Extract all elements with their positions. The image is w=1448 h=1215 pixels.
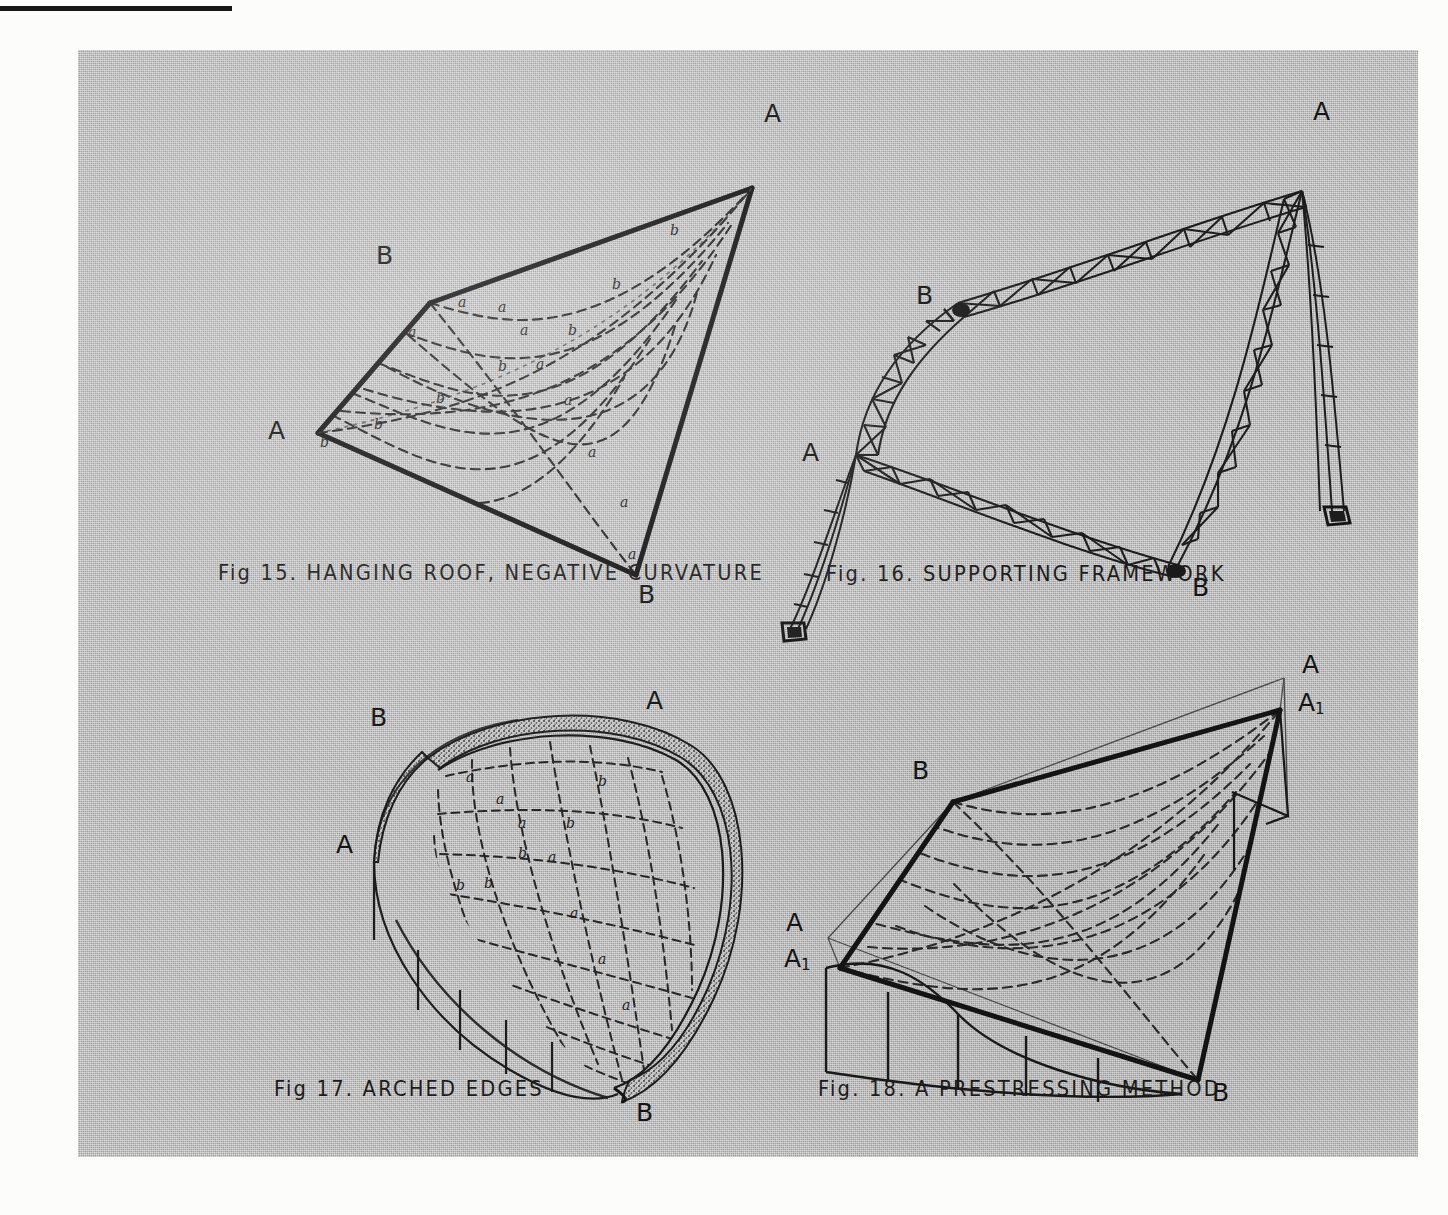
fig18-net-family-b	[840, 710, 1280, 1080]
fig18-subscript-1: 1	[1315, 700, 1325, 718]
fig16-label-A-left: A	[802, 440, 819, 465]
fig16-truss-B-top-to-A-right	[958, 191, 1306, 317]
fig17-net-letter: a	[622, 998, 630, 1012]
fig16-label-A-top-right: A	[1313, 99, 1330, 124]
figure-15: A B A B a a b b a b a b a b b a a b	[168, 95, 788, 605]
fig15-net-letter: a	[564, 393, 572, 407]
halftone-plate: A B A B a a b b a b a b a b b a a b	[78, 50, 1418, 1157]
fig15-diagonal-hint	[318, 188, 752, 433]
fig18-subscript-1: 1	[801, 956, 811, 974]
fig16-truss-A-left-to-B-bottom	[856, 455, 1178, 577]
fig17-label-B-top-left: B	[370, 705, 387, 730]
fig17-net-letter: b	[598, 774, 607, 788]
fig15-net-letter: a	[536, 357, 544, 371]
figure-15-caption: Fig 15. HANGING ROOF, NEGATIVE CURVATURE	[218, 561, 764, 585]
fig17-net-letter: a	[466, 770, 474, 784]
fig16-nodes	[952, 303, 1186, 578]
figure-18: A A1 B A A1 B	[768, 620, 1388, 1110]
fig15-net-letter: a	[520, 323, 528, 337]
figure-16-drawing	[768, 95, 1388, 605]
fig18-edge-B-A1-right	[1198, 710, 1280, 1080]
figure-17: A B A B a a b a b b a b b a a a	[278, 650, 818, 1110]
figure-18-caption: Fig. 18. A PRESTRESSING METHOD	[818, 1077, 1221, 1101]
fig18-edge-A1-B	[953, 710, 1280, 802]
fig15-net-letter: b	[374, 417, 383, 431]
fig15-net-letter: b	[498, 359, 507, 373]
fig16-truss-A-left-to-B-top	[856, 303, 964, 455]
figure-18-drawing	[768, 620, 1388, 1110]
fig17-net-letter: a	[570, 906, 578, 920]
fig18-label-A1-left-lower: A1	[784, 946, 811, 973]
fig18-label-B-upper-left: B	[912, 758, 929, 783]
fig18-label-A-left-upper: A	[786, 910, 803, 935]
fig18-label-A-top-right-upper: A	[1302, 652, 1319, 677]
fig17-net-letter: a	[518, 816, 526, 830]
fig15-net-letter: b	[670, 223, 679, 237]
fig18-construction-lines	[828, 678, 1288, 1080]
fig17-net-letter: b	[456, 878, 465, 892]
fig15-net-letter: a	[588, 445, 596, 459]
fig15-net-letter: b	[320, 435, 329, 449]
fig17-net-letter: a	[598, 952, 606, 966]
fig16-truss-A-right-to-B-bottom	[1168, 191, 1302, 567]
fig16-label-B-upper-left: B	[916, 283, 933, 308]
fig16-guy-right	[1302, 191, 1344, 511]
fig17-net-letter: b	[518, 846, 527, 860]
fig17-net-letter: a	[548, 850, 556, 864]
fig16-anchor-right	[1324, 507, 1350, 525]
fig17-net-letter: b	[484, 876, 493, 890]
fig18-net-family-a	[840, 710, 1280, 989]
fig15-label-B-upper-left: B	[376, 243, 393, 268]
fig15-edge-A-B-top	[430, 188, 752, 303]
fig15-net-letter: a	[628, 547, 636, 561]
fig17-net-letter: a	[496, 792, 504, 806]
page-sheet: A B A B a a b b a b a b a b b a a b	[0, 0, 1448, 1215]
fig15-label-B-bottom: B	[638, 582, 655, 607]
fig17-shell-rim	[438, 735, 723, 1088]
fig17-label-A-left: A	[336, 832, 353, 857]
fig15-net-letter: a	[620, 495, 628, 509]
fig17-label-B-bottom-right: B	[636, 1100, 653, 1125]
fig17-net-family-b	[434, 742, 692, 1080]
fig17-net-letter: b	[566, 816, 575, 830]
fig15-net-letter: a	[458, 295, 466, 309]
fig18-label-A1-top-right-lower: A1	[1298, 690, 1325, 717]
figure-16: A B A B	[768, 95, 1388, 605]
fig17-label-A-top-right: A	[646, 688, 663, 713]
fig15-net-letter: a	[408, 325, 416, 339]
fig15-net-letter: b	[568, 323, 577, 337]
figure-17-caption: Fig 17. ARCHED EDGES	[274, 1077, 544, 1101]
fig15-net-letter: b	[436, 391, 445, 405]
fig17-net-family-a	[438, 762, 698, 1092]
figure-16-caption: Fig. 16. SUPPORTING FRAMEWORK	[826, 562, 1226, 586]
fig15-net-family-a	[318, 188, 752, 504]
top-rule	[0, 6, 232, 11]
fig15-net-letter: a	[498, 300, 506, 314]
figure-15-drawing	[168, 95, 788, 605]
fig15-net-letter: b	[612, 277, 621, 291]
figure-17-drawing	[278, 650, 818, 1110]
fig16-guy-left	[790, 455, 856, 629]
fig15-label-A-left: A	[268, 418, 285, 443]
